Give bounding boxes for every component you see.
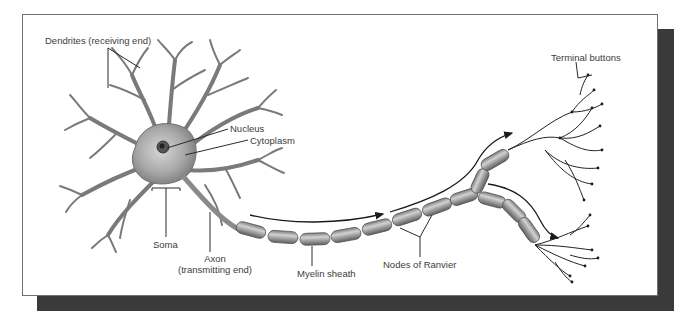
label-dendrites: Dendrites (receiving end) [45,35,151,46]
label-terminal-buttons: Terminal buttons [551,52,621,63]
label-soma: Soma [153,239,178,250]
soma-body [132,124,196,184]
label-axon-subtitle: (transmitting end) [178,264,252,275]
myelin-sheath [235,147,542,245]
terminal-branches [508,75,602,282]
label-nodes-of-ranvier: Nodes of Ranvier [383,259,456,270]
label-nucleus: Nucleus [230,123,264,134]
label-cytoplasm: Cytoplasm [250,135,295,146]
label-myelin-sheath: Myelin sheath [297,268,356,279]
label-axon: Axon [204,253,226,264]
axon [182,175,240,230]
